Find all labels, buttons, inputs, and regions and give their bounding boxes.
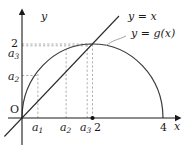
x-tick-a1-sub: 1	[39, 126, 44, 135]
curve-y-equals-g-x	[22, 44, 163, 118]
y-tick-a3-sub: 3	[15, 52, 20, 61]
x-tick-label-2: 2	[94, 122, 101, 133]
x-tick-label-a3: a3	[80, 122, 91, 134]
math-figure: y x O y = x y = g(x) 2 a3 a2 a1 a2 a3 2 …	[0, 0, 190, 153]
curve-label-y-equals-g-x: y = g(x)	[131, 28, 175, 39]
origin-label: O	[10, 104, 19, 115]
x-tick-a2-sub: 2	[67, 126, 72, 135]
y-axis-label: y	[41, 11, 47, 22]
line-label-y-equals-x: y = x	[128, 11, 157, 22]
y-tick-label-a2: a2	[8, 71, 19, 83]
x-tick-label-a2: a2	[60, 122, 71, 134]
y-tick-label-a3: a3	[8, 48, 19, 60]
marked-point-x-2	[90, 116, 94, 120]
x-tick-a3-sub: 3	[87, 126, 92, 135]
x-axis-label: x	[174, 121, 180, 132]
leader-line-g-x	[106, 36, 126, 46]
x-tick-label-a1: a1	[32, 122, 43, 134]
x-tick-label-4: 4	[160, 122, 167, 133]
y-tick-a2-sub: 2	[15, 75, 20, 84]
